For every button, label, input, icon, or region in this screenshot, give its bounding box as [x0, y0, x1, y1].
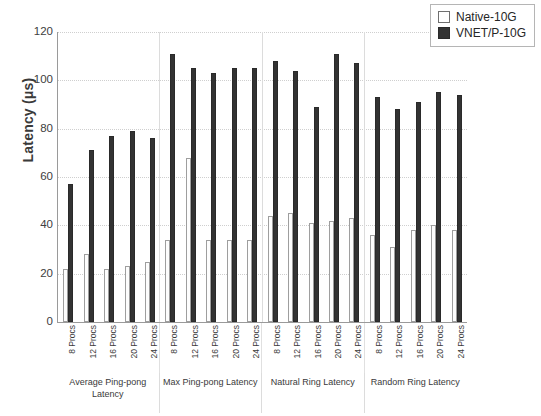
bar-pair — [329, 32, 339, 322]
bar-groups — [58, 32, 467, 322]
x-tick-group: 8 Procs12 Procs16 Procs20 Procs24 Procs — [57, 323, 159, 371]
x-axis-tick-label: 20 Procs — [430, 323, 440, 369]
bar-pair — [104, 32, 114, 322]
bar-pair — [431, 32, 441, 322]
bar-vnet — [191, 68, 196, 322]
x-tick-group: 8 Procs12 Procs16 Procs20 Procs24 Procs — [364, 323, 466, 371]
x-axis-tick-label: 16 Procs — [205, 323, 215, 369]
x-axis-tick-label: 8 Procs — [267, 323, 277, 369]
bar-vnet — [416, 102, 421, 322]
bar-pair — [370, 32, 380, 322]
y-axis-tick-label: 100 — [1, 73, 53, 85]
legend-entry-label: VNET/P-10G — [456, 26, 526, 40]
y-axis-tick-labels: 020406080100120 — [0, 0, 53, 416]
x-axis-tick-label: 24 Procs — [144, 323, 154, 369]
x-axis-group-label: Max Ping-pong Latency — [159, 373, 262, 413]
bar-pair — [411, 32, 421, 322]
bar-pair — [125, 32, 135, 322]
bar-group — [365, 32, 467, 322]
legend-entry: Native-10G — [438, 9, 526, 25]
bar-vnet — [211, 73, 216, 322]
x-axis-tick-label: 12 Procs — [389, 323, 399, 369]
x-axis-tick-label: 8 Procs — [62, 323, 72, 369]
bar-vnet — [273, 61, 278, 322]
x-axis-group-label: Average Ping-pong Latency — [57, 373, 159, 413]
bar-group — [263, 32, 365, 322]
bar-vnet — [293, 71, 298, 322]
x-axis-tick-label: 24 Procs — [451, 323, 461, 369]
bar-pair — [309, 32, 319, 322]
bar-vnet — [395, 109, 400, 322]
bar-pair — [165, 32, 175, 322]
bar-vnet — [314, 107, 319, 322]
chart-legend: Native-10GVNET/P-10G — [430, 4, 535, 47]
x-axis-tick-label: 24 Procs — [348, 323, 358, 369]
bar-pair — [390, 32, 400, 322]
x-tick-group: 8 Procs12 Procs16 Procs20 Procs24 Procs — [159, 323, 261, 371]
bar-vnet — [130, 131, 135, 322]
x-axis-tick-label: 20 Procs — [328, 323, 338, 369]
x-axis-tick-label: 16 Procs — [410, 323, 420, 369]
x-axis-tick-label: 20 Procs — [226, 323, 236, 369]
bar-pair — [206, 32, 216, 322]
bar-pair — [84, 32, 94, 322]
x-axis-tick-label: 16 Procs — [308, 323, 318, 369]
bar-pair — [288, 32, 298, 322]
bar-pair — [349, 32, 359, 322]
hollow-square-swatch — [438, 11, 450, 23]
x-axis-tick-label: 8 Procs — [164, 323, 174, 369]
bar-pair — [145, 32, 155, 322]
x-axis-group-labels: Average Ping-pong LatencyMax Ping-pong L… — [57, 373, 466, 413]
bar-vnet — [170, 54, 175, 322]
x-axis-group-label: Random Ring Latency — [364, 373, 467, 413]
x-axis-tick-label: 12 Procs — [83, 323, 93, 369]
bar-vnet — [375, 97, 380, 322]
legend-entry: VNET/P-10G — [438, 25, 526, 41]
bar-pair — [63, 32, 73, 322]
bar-vnet — [232, 68, 237, 322]
y-axis-tick-label: 0 — [1, 315, 53, 327]
x-axis-tick-label: 12 Procs — [287, 323, 297, 369]
y-axis-tick-label: 60 — [1, 170, 53, 182]
y-axis-tick-label: 120 — [1, 25, 53, 37]
x-axis-tick-label: 8 Procs — [369, 323, 379, 369]
bar-vnet — [109, 136, 114, 322]
bar-group — [160, 32, 262, 322]
x-axis-tick-labels: 8 Procs12 Procs16 Procs20 Procs24 Procs8… — [57, 323, 466, 371]
x-axis-tick-label: 24 Procs — [246, 323, 256, 369]
bar-vnet — [89, 150, 94, 322]
bar-pair — [268, 32, 278, 322]
y-axis-tick-label: 80 — [1, 122, 53, 134]
bar-pair — [247, 32, 257, 322]
y-axis-tick-label: 40 — [1, 218, 53, 230]
x-axis-tick-label: 20 Procs — [124, 323, 134, 369]
bar-pair — [227, 32, 237, 322]
bar-vnet — [252, 68, 257, 322]
bar-vnet — [150, 138, 155, 322]
bar-pair — [186, 32, 196, 322]
x-axis-group-label: Natural Ring Latency — [261, 373, 364, 413]
x-axis-tick-label: 16 Procs — [103, 323, 113, 369]
bar-pair — [452, 32, 462, 322]
bar-chart: Latency (μs) 020406080100120 8 Procs12 P… — [0, 0, 541, 416]
bar-group — [58, 32, 160, 322]
x-axis-tick-label: 12 Procs — [185, 323, 195, 369]
legend-entry-label: Native-10G — [456, 10, 517, 24]
filled-square-swatch — [438, 27, 450, 39]
bar-vnet — [68, 184, 73, 322]
bar-vnet — [354, 63, 359, 322]
x-tick-group: 8 Procs12 Procs16 Procs20 Procs24 Procs — [262, 323, 364, 371]
bar-vnet — [334, 54, 339, 322]
bar-vnet — [457, 95, 462, 322]
y-axis-tick-label: 20 — [1, 267, 53, 279]
plot-area — [57, 32, 467, 323]
bar-vnet — [436, 92, 441, 322]
